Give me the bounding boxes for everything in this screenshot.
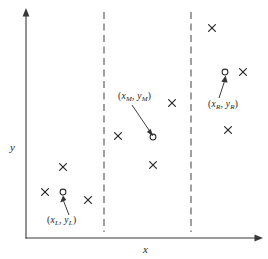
y-axis-arrowhead	[23, 8, 30, 17]
data-point-cross	[209, 25, 216, 32]
y-axis-label: y	[10, 142, 15, 153]
label-right-close: )	[235, 99, 238, 109]
figure-container: (xL, yL) (xM, yM) (xR, yR) y x	[0, 0, 268, 259]
x-axis-label: x	[143, 244, 148, 255]
data-point-cross	[85, 197, 92, 204]
circle-markers-group	[60, 69, 228, 195]
label-mid-close: )	[148, 91, 151, 101]
labeled-point-circle-mid	[150, 134, 156, 140]
divider-group	[104, 12, 191, 232]
label-left-y-var: y	[64, 215, 68, 225]
x-axis-arrowhead	[255, 235, 264, 242]
data-point-cross	[115, 133, 122, 140]
pointer-to-right-circle	[219, 76, 228, 98]
pointer-to-left-circle	[60, 196, 69, 215]
pointer-to-mid-circle	[132, 105, 153, 136]
label-left-close: )	[73, 215, 76, 225]
label-left-point: (xL, yL)	[47, 216, 76, 227]
data-point-cross	[240, 69, 247, 76]
data-point-cross	[42, 189, 49, 196]
figure-canvas	[0, 0, 268, 259]
labeled-point-circle-left	[60, 189, 66, 195]
data-point-cross	[169, 100, 176, 107]
data-point-cross	[225, 127, 232, 134]
label-mid-y-var: y	[137, 91, 141, 101]
cross-markers-group	[42, 25, 247, 204]
data-point-cross	[60, 164, 67, 171]
labeled-point-circle-right	[222, 69, 228, 75]
data-point-cross	[150, 162, 157, 169]
axes-group	[23, 8, 263, 241]
label-right-point: (xR, yR)	[208, 100, 238, 111]
label-mid-point: (xM, yM)	[118, 92, 151, 103]
